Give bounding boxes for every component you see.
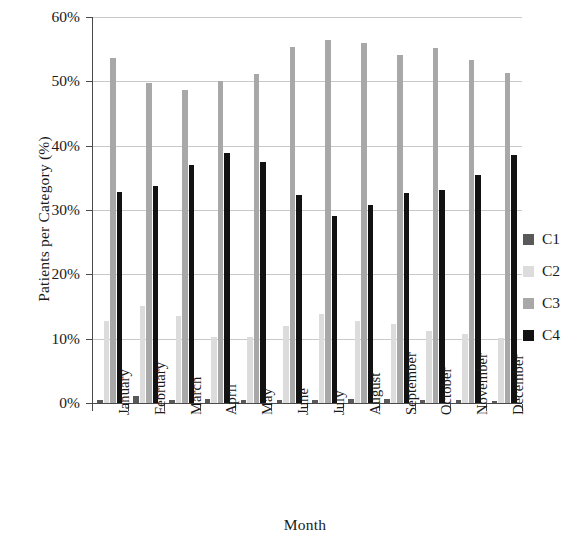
bar-group xyxy=(200,17,236,403)
legend-item-c2[interactable]: C2 xyxy=(523,255,576,287)
bar-c2-november xyxy=(462,334,468,403)
bar-c3-may xyxy=(254,74,260,403)
bar-c2-october xyxy=(426,331,432,403)
bar-group xyxy=(271,17,307,403)
x-label-august: August xyxy=(367,373,384,416)
bar-c3-november xyxy=(469,60,475,403)
legend-label: C1 xyxy=(542,231,560,247)
bar-c2-march xyxy=(176,316,182,403)
bar-c2-february xyxy=(140,306,146,403)
bar-group xyxy=(92,17,128,403)
y-tick-label: 40% xyxy=(20,138,80,154)
bar-c4-may xyxy=(260,162,266,403)
bar-c3-february xyxy=(146,83,152,403)
legend-swatch-c1 xyxy=(523,234,534,245)
plot-area xyxy=(92,17,522,403)
bar-c3-january xyxy=(110,58,116,403)
x-axis-title: Month xyxy=(90,516,520,534)
bar-c2-april xyxy=(211,337,217,403)
bar-c3-september xyxy=(397,55,403,403)
y-tick-label: 20% xyxy=(20,266,80,282)
legend-label: C4 xyxy=(542,327,560,343)
bar-c2-december xyxy=(498,338,504,403)
bar-c2-august xyxy=(355,321,361,403)
y-axis-title: Patients per Category (%) xyxy=(35,79,53,359)
bar-group xyxy=(128,17,164,403)
bar-group xyxy=(164,17,200,403)
x-label-april: April xyxy=(223,384,240,415)
x-label-june: June xyxy=(295,388,312,415)
x-label-january: January xyxy=(116,369,133,415)
legend-item-c4[interactable]: C4 xyxy=(523,319,576,351)
bar-c4-april xyxy=(224,153,230,403)
bar-group xyxy=(307,17,343,403)
y-tick-label: 30% xyxy=(20,202,80,218)
x-label-december: December xyxy=(510,355,527,415)
bar-c3-december xyxy=(505,73,511,403)
x-label-february: February xyxy=(152,362,169,415)
bar-group xyxy=(415,17,451,403)
bar-c4-march xyxy=(189,165,195,403)
bar-c4-june xyxy=(296,195,302,403)
x-label-november: November xyxy=(474,353,491,415)
bar-c3-june xyxy=(290,47,296,403)
bar-c3-march xyxy=(182,90,188,403)
x-label-march: March xyxy=(188,377,205,415)
chart-legend: C1C2C3C4 xyxy=(523,223,576,351)
bar-chart-figure: Patients per Category (%) 0%10%20%30%40%… xyxy=(0,0,576,549)
x-label-october: October xyxy=(438,368,455,415)
bar-c3-july xyxy=(325,40,331,403)
y-tick-label: 50% xyxy=(20,73,80,89)
bar-c3-october xyxy=(433,48,439,403)
y-tick-label: 60% xyxy=(20,9,80,25)
x-label-may: May xyxy=(259,388,276,415)
x-label-september: September xyxy=(403,352,420,415)
bar-c1-february xyxy=(133,396,139,403)
bar-c4-july xyxy=(332,216,338,403)
bar-c2-june xyxy=(283,326,289,403)
legend-item-c1[interactable]: C1 xyxy=(523,223,576,255)
legend-swatch-c4 xyxy=(523,330,534,341)
bar-group xyxy=(235,17,271,403)
legend-label: C3 xyxy=(542,295,560,311)
legend-label: C2 xyxy=(542,263,560,279)
y-tick-label: 10% xyxy=(20,331,80,347)
bar-group xyxy=(450,17,486,403)
x-label-july: July xyxy=(331,390,348,415)
y-tick-label: 0% xyxy=(20,395,80,411)
bar-c2-july xyxy=(319,314,325,403)
legend-swatch-c3 xyxy=(523,298,534,309)
bar-group xyxy=(343,17,379,403)
bar-c2-january xyxy=(104,321,110,403)
bar-c3-august xyxy=(361,43,367,403)
bar-c2-may xyxy=(247,337,253,403)
x-tick-mark xyxy=(92,404,93,411)
bar-group xyxy=(486,17,522,403)
legend-swatch-c2 xyxy=(523,266,534,277)
bar-c3-april xyxy=(218,81,224,403)
legend-item-c3[interactable]: C3 xyxy=(523,287,576,319)
bar-c2-september xyxy=(391,324,397,403)
bar-group xyxy=(379,17,415,403)
